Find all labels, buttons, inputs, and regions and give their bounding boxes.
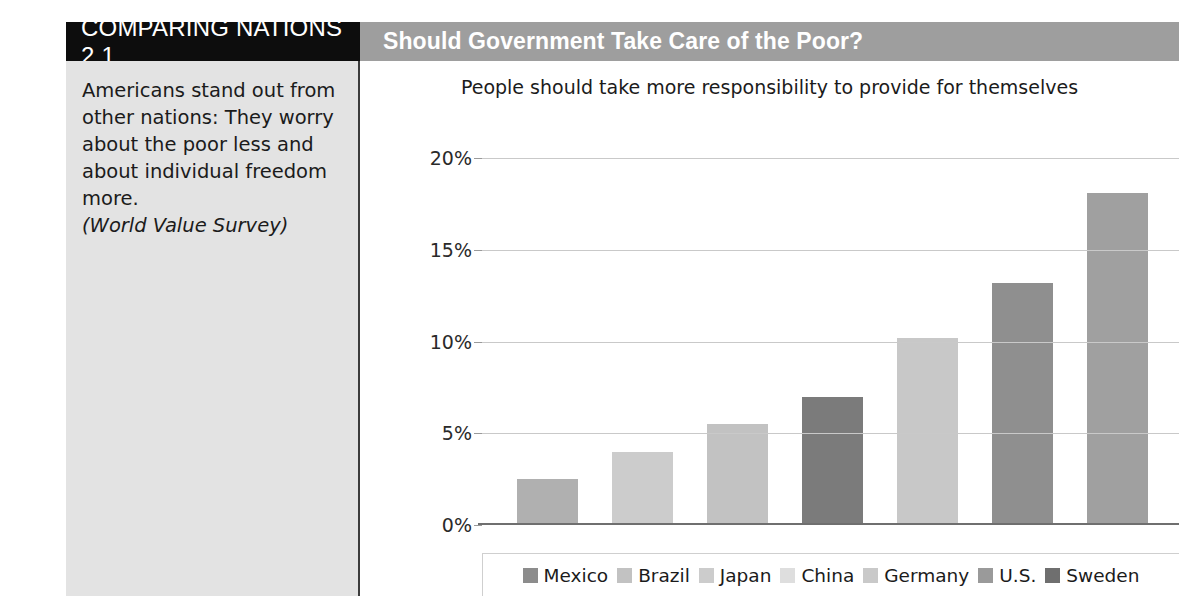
legend-swatch-icon [617,568,632,583]
legend-swatch-icon [863,568,878,583]
y-gridline [482,433,1179,434]
plot-area: 20%15%10%5%0% [482,158,1179,525]
y-tick-mark [474,433,482,434]
y-tick-mark [474,250,482,251]
legend-label: Sweden [1066,565,1139,586]
y-axis-tick-label: 20% [430,147,472,169]
y-tick-mark [474,525,482,526]
bar-us [992,283,1053,525]
y-gridline [482,158,1179,159]
legend-swatch-icon [699,568,714,583]
figure-number-tag: COMPARING NATIONS 2.1 [66,22,360,61]
legend-swatch-icon [780,568,795,583]
caption-text: Americans stand out from other nations: … [82,79,335,210]
bar-brazil [612,452,673,525]
legend-item-china[interactable]: China [780,565,854,586]
legend-label: U.S. [999,565,1036,586]
y-gridline [482,525,1179,526]
chart-panel: People should take more responsibility t… [360,61,1179,596]
legend-item-mexico[interactable]: Mexico [523,565,609,586]
legend-swatch-icon [523,568,538,583]
legend-item-japan[interactable]: Japan [699,565,772,586]
figure-box: COMPARING NATIONS 2.1 Should Government … [66,22,1179,596]
y-gridline [482,342,1179,343]
caption-source: (World Value Survey) [82,212,340,239]
legend-swatch-icon [1045,568,1060,583]
legend-swatch-icon [978,568,993,583]
legend-label: Brazil [638,565,690,586]
legend-label: Germany [884,565,969,586]
figure-header: COMPARING NATIONS 2.1 Should Government … [66,22,1179,61]
legend-label: Japan [720,565,772,586]
chart-title: People should take more responsibility t… [360,75,1179,100]
legend-item-germany[interactable]: Germany [863,565,969,586]
bar-germany [897,338,958,525]
y-axis-tick-label: 5% [442,422,472,444]
legend-label: China [801,565,854,586]
bar-japan [707,424,768,525]
bar-mexico [517,479,578,525]
y-axis-tick-label: 15% [430,238,472,260]
legend-item-sweden[interactable]: Sweden [1045,565,1139,586]
caption-text-block: Americans stand out from other nations: … [82,77,340,239]
figure-body: Americans stand out from other nations: … [66,61,1179,596]
y-tick-mark [474,158,482,159]
figure-title: Should Government Take Care of the Poor? [360,22,1179,61]
y-axis-tick-label: 0% [442,514,472,536]
caption-sidebar: Americans stand out from other nations: … [66,61,360,596]
chart-legend: MexicoBrazilJapanChinaGermanyU.S.Sweden [482,553,1179,596]
y-tick-mark [474,342,482,343]
bar-sweden [1087,193,1148,525]
y-axis-tick-label: 10% [430,330,472,352]
bar-china [802,397,863,525]
legend-item-brazil[interactable]: Brazil [617,565,690,586]
legend-label: Mexico [544,565,609,586]
legend-item-us[interactable]: U.S. [978,565,1036,586]
y-gridline [482,250,1179,251]
